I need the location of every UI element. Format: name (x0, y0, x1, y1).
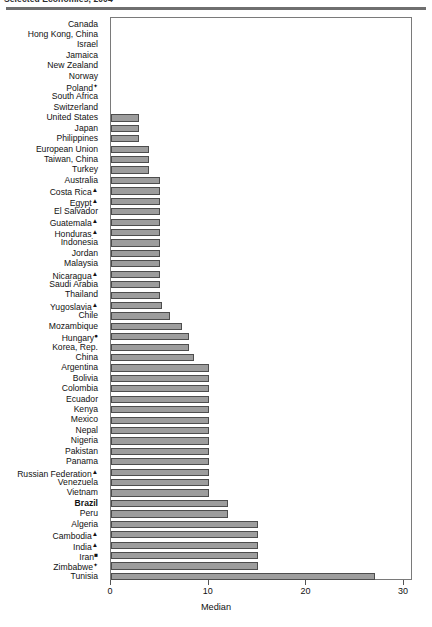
bar-row: Vietnam (0, 488, 432, 499)
bar-row-label: Japan (75, 123, 98, 134)
bar-row-label: China (76, 352, 98, 363)
bar-row-label: Venezuela (58, 477, 98, 488)
bar-row-label: South Africa (52, 91, 98, 102)
bar (111, 573, 375, 580)
bar-row-label: Malaysia (64, 258, 98, 269)
bar-row-label: Canada (68, 19, 98, 30)
bar-row-label: New Zealand (47, 60, 98, 71)
bar (111, 302, 162, 309)
footnote-marker-icon: ● (94, 332, 98, 339)
bar (111, 198, 160, 205)
bar-row: Ecuador (0, 394, 432, 405)
bar-row-label: Indonesia (61, 237, 98, 248)
bar (111, 135, 139, 142)
bar (111, 375, 209, 382)
bar-row-label: Jamaica (66, 50, 98, 61)
bar-row-label: Philippines (56, 133, 98, 144)
bar-row-label: Colombia (62, 383, 98, 394)
bar-row-label: Vietnam (67, 487, 98, 498)
bar-chart: CanadaHong Kong, ChinaIsraelJamaicaNew Z… (0, 0, 432, 627)
bar (111, 208, 160, 215)
bar-row: Tunisia (0, 571, 432, 582)
bar (111, 146, 149, 153)
bar-row: Thailand (0, 290, 432, 301)
bar-row: Taiwan, China (0, 154, 432, 165)
bar-row-label: Brazil (75, 498, 98, 509)
bar (111, 156, 149, 163)
footnote-marker-icon: ▲ (92, 301, 98, 308)
x-tick-label: 10 (203, 586, 213, 596)
bar (111, 542, 258, 549)
footnote-marker-icon: ▲ (92, 468, 98, 475)
bar-row: Malaysia (0, 259, 432, 270)
bar-row: Egypt▲ (0, 196, 432, 207)
bar (111, 437, 209, 444)
bar (111, 260, 160, 267)
bar-row-label: European Union (36, 144, 98, 155)
bar-row: Brazil (0, 498, 432, 509)
x-tick (208, 580, 209, 585)
bar (111, 552, 258, 559)
footnote-marker-icon: ▲ (92, 541, 98, 548)
bar-row-label: Saudi Arabia (49, 279, 98, 290)
bar-row-label: Pakistan (65, 446, 98, 457)
bar (111, 469, 209, 476)
bar-row: Kenya (0, 405, 432, 416)
footnote-marker-icon: ✦ (93, 82, 98, 89)
bar-row-label: Hong Kong, China (28, 29, 98, 40)
bar (111, 281, 160, 288)
bar-row: Jamaica (0, 50, 432, 61)
bar-row: Hong Kong, China (0, 29, 432, 40)
bar-row-label: Israel (77, 39, 98, 50)
bar-row: Chile (0, 311, 432, 322)
x-tick-label: 30 (398, 586, 408, 596)
bar-row: New Zealand (0, 61, 432, 72)
bar-row-label: Panama (66, 456, 98, 467)
footnote-marker-icon: ▲ (92, 270, 98, 277)
bar-row-label: Nigeria (71, 435, 98, 446)
footnote-marker-icon: ✦ (93, 561, 98, 568)
bar-row: Yugoslavia▲ (0, 300, 432, 311)
bar (111, 427, 209, 434)
bar (111, 562, 258, 569)
bar-row-label: Mexico (71, 414, 98, 425)
bar-row: Nigeria (0, 436, 432, 447)
bar-row-label: United States (46, 112, 98, 123)
footnote-marker-icon: ▲ (92, 186, 98, 193)
bar (111, 323, 182, 330)
bar (111, 271, 160, 278)
bar-row-label: Turkey (72, 164, 98, 175)
bar-row-label: Jordan (72, 248, 98, 259)
bar (111, 333, 189, 340)
bar (111, 521, 258, 528)
bar-row-label: Argentina (61, 362, 98, 373)
bar-row: Argentina (0, 363, 432, 374)
bar-row-label: Chile (78, 310, 98, 321)
bar-row: Iran■ (0, 550, 432, 561)
bar (111, 406, 209, 413)
bar-row: Zimbabwe✦ (0, 561, 432, 572)
bar-row: Bolivia (0, 373, 432, 384)
bar (111, 510, 228, 517)
bar-row: Peru (0, 509, 432, 520)
bar-row-label: Ecuador (66, 394, 98, 405)
footnote-marker-icon: ▲ (92, 217, 98, 224)
bar-row: Israel (0, 40, 432, 51)
bar (111, 219, 160, 226)
bar (111, 114, 139, 121)
bar-row: Japan (0, 123, 432, 134)
bar-row: Honduras▲ (0, 227, 432, 238)
bar-row-label: Taiwan, China (44, 154, 98, 165)
bar-row: Australia (0, 175, 432, 186)
bar-row: United States (0, 113, 432, 124)
bar-row: Cambodia▲ (0, 530, 432, 541)
bar-row-label: Australia (65, 175, 98, 186)
bar-row: Poland✦ (0, 82, 432, 93)
bar-row-label: Norway (69, 71, 98, 82)
bar (111, 312, 170, 319)
bar-row: Turkey (0, 165, 432, 176)
bar-row-label: El Salvador (54, 206, 98, 217)
bar-row-label: Bolivia (73, 373, 98, 384)
bar-row-label: Algeria (71, 519, 98, 530)
bar-row: Jordan (0, 248, 432, 259)
